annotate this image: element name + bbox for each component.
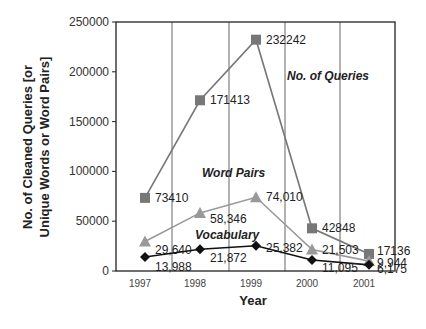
triangle-marker <box>250 191 262 202</box>
square-marker <box>195 95 205 105</box>
y-axis-title: No. of Cleaned Queries [or Unique Words … <box>20 57 52 238</box>
square-marker <box>140 193 150 203</box>
data-label: 13,988 <box>155 260 192 274</box>
x-axis-ticks: 19971998199920002001 <box>129 278 376 289</box>
data-label: 74,010 <box>266 190 303 204</box>
diamond-marker <box>251 241 261 251</box>
square-marker <box>307 223 317 233</box>
data-label: 232242 <box>266 33 306 47</box>
series-label-vocabulary: Vocabulary <box>195 228 261 242</box>
data-label: 73410 <box>155 191 189 205</box>
data-label: 42848 <box>322 221 356 235</box>
data-label: 6,175 <box>377 262 407 276</box>
series-label-word-pairs: Word Pairs <box>202 166 265 180</box>
x-axis-title: Year <box>239 293 266 308</box>
svg-text:Unique Words or Word Pairs]: Unique Words or Word Pairs] <box>37 57 52 238</box>
y-tick-label: 150000 <box>69 115 109 129</box>
x-tick-label: 2001 <box>353 278 376 289</box>
line-chart: 050000100000150000200000250000 199719981… <box>0 0 426 329</box>
diamond-marker <box>195 244 205 254</box>
y-tick-label: 0 <box>102 264 109 278</box>
square-marker <box>251 35 261 45</box>
diamond-marker <box>364 260 374 270</box>
diamond-marker <box>140 252 150 262</box>
x-tick-label: 1998 <box>184 278 207 289</box>
y-tick-label: 250000 <box>69 15 109 29</box>
diamond-marker <box>307 255 317 265</box>
data-label: 171413 <box>210 93 250 107</box>
y-axis-ticks: 050000100000150000200000250000 <box>69 15 116 278</box>
data-label: 25,382 <box>266 241 303 255</box>
series-label-queries: No. of Queries <box>287 69 369 83</box>
svg-text:No. of Cleaned Queries [or: No. of Cleaned Queries [or <box>20 65 35 229</box>
y-tick-label: 50000 <box>76 214 110 228</box>
data-label: 21,503 <box>322 243 359 257</box>
y-tick-label: 200000 <box>69 65 109 79</box>
triangle-marker <box>139 235 151 246</box>
data-label: 11,095 <box>322 261 358 275</box>
data-label: 21,872 <box>210 251 247 265</box>
series-no-of-queries: 734101714132322424284817136 <box>140 33 411 259</box>
series-group: 73410171413232242428481713629,64058,3467… <box>139 33 411 276</box>
x-tick-label: 1999 <box>240 278 263 289</box>
x-tick-label: 2000 <box>296 278 319 289</box>
data-label: 58,346 <box>210 212 247 226</box>
y-tick-label: 100000 <box>69 164 109 178</box>
x-tick-label: 1997 <box>129 278 152 289</box>
